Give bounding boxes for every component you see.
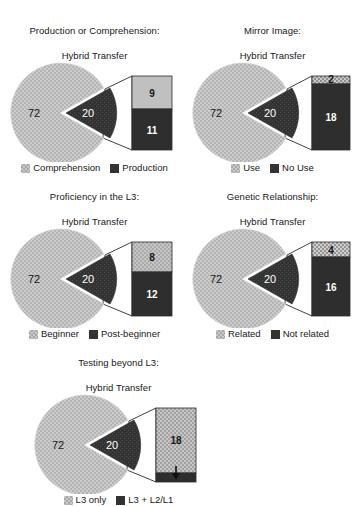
bar-label-light: 2: [328, 74, 334, 85]
bar-label-dark: 16: [325, 282, 337, 293]
pie-slice-label-minor: 20: [106, 439, 118, 451]
legend-entry-dark: No Use: [270, 162, 314, 174]
legend-swatch-light-icon: [64, 496, 73, 505]
legend-label-dark: L3 + L2/L1: [128, 494, 173, 506]
pie-slice-label-major: 72: [210, 273, 222, 285]
legend-swatch-light-icon: [216, 330, 225, 339]
bar-label-dark: 18: [325, 112, 337, 123]
pie-of-pie-svg: 72 20 4 16: [186, 228, 359, 328]
panel-legend: Beginner Post-beginner: [4, 328, 185, 340]
panel-title-line2: Hybrid Transfer: [240, 50, 306, 61]
panel-title-line1: Genetic Relationship:: [227, 191, 318, 202]
panel-title-line1: Proficiency in the L3:: [50, 191, 139, 202]
legend-swatch-light-icon: [21, 164, 30, 173]
legend-entry-light: L3 only: [64, 494, 107, 506]
pie-slice-label-major: 72: [28, 273, 40, 285]
panel-legend: Comprehension Production: [4, 162, 185, 174]
pie-slice-label-major: 72: [210, 107, 222, 119]
pie-of-pie-svg: 72 20 18: [28, 394, 209, 494]
legend-label-light: Use: [243, 162, 260, 174]
legend-label-light: Comprehension: [33, 162, 100, 174]
legend-entry-light: Use: [231, 162, 260, 174]
legend-label-dark: Production: [122, 162, 167, 174]
panel-title-line2: Hybrid Transfer: [86, 382, 152, 393]
legend-entry-dark: Not related: [271, 328, 329, 340]
bar-label-dark: 11: [147, 125, 158, 136]
legend-swatch-dark-icon: [110, 164, 119, 173]
bar-label-dark: 12: [146, 289, 158, 300]
panel-title-line2: Hybrid Transfer: [240, 216, 306, 227]
panel-title-line2: Hybrid Transfer: [62, 50, 128, 61]
bar-label-light: 4: [328, 245, 334, 256]
pie-slice-label-minor: 20: [82, 273, 94, 285]
panel-genetic-relationship: Genetic Relationship: Hybrid Transfer: [186, 178, 359, 330]
panel-title-line1: Mirror Image:: [244, 25, 301, 36]
bar-label-light: 8: [149, 252, 155, 263]
legend-label-light: Related: [228, 328, 261, 340]
legend-label-dark: Post-beginner: [101, 328, 160, 340]
pie-slice-label-minor: 20: [264, 107, 276, 119]
pie-slice-label-minor: 20: [264, 273, 276, 285]
panel-legend: L3 only L3 + L2/L1: [28, 494, 209, 506]
legend-swatch-dark-icon: [89, 330, 98, 339]
panel-title-line2: Hybrid Transfer: [62, 216, 128, 227]
pie-of-pie-plot: 72 20 4 16: [186, 228, 359, 328]
legend-entry-light: Related: [216, 328, 261, 340]
pie-slice-label-major: 72: [52, 439, 64, 451]
bar-label-light: 18: [170, 435, 182, 446]
legend-entry-dark: Production: [110, 162, 167, 174]
panel-title: Production or Comprehension: Hybrid Tran…: [4, 12, 185, 62]
panel-legend: Related Not related: [186, 328, 359, 340]
pie-slice-label-minor: 20: [82, 107, 94, 119]
legend-label-light: Beginner: [41, 328, 79, 340]
legend-label-light: L3 only: [76, 494, 107, 506]
panel-title: Proficiency in the L3: Hybrid Transfer: [4, 178, 185, 228]
panel-title-line1: Testing beyond L3:: [78, 357, 159, 368]
pie-of-pie-svg: 72 20 9 11: [4, 62, 185, 162]
pie-of-pie-plot: 72 20 8 12: [4, 228, 185, 328]
pie-of-pie-plot: 72 20 18: [28, 394, 209, 494]
pie-of-pie-svg: 72 20 8 12: [4, 228, 185, 328]
panel-testing-beyond-l3: Testing beyond L3: Hybrid Transfer: [28, 344, 209, 496]
pie-slice-label-major: 72: [28, 107, 40, 119]
pie-of-pie-plot: 72 20 9 11: [4, 62, 185, 162]
bar-label-light: 9: [149, 88, 155, 99]
legend-swatch-light-icon: [29, 330, 38, 339]
panel-production-or-comprehension: Production or Comprehension: Hybrid Tran…: [4, 12, 185, 164]
panel-proficiency-in-the-l3: Proficiency in the L3: Hybrid Transfer: [4, 178, 185, 330]
legend-entry-light: Beginner: [29, 328, 79, 340]
pie-of-pie-plot: 72 20 2 18: [186, 62, 359, 162]
legend-entry-dark: L3 + L2/L1: [116, 494, 173, 506]
panel-title-line1: Production or Comprehension:: [29, 25, 159, 36]
panel-title: Genetic Relationship: Hybrid Transfer: [186, 178, 359, 228]
legend-swatch-dark-icon: [116, 496, 125, 505]
legend-entry-dark: Post-beginner: [89, 328, 160, 340]
legend-label-dark: No Use: [282, 162, 314, 174]
panel-mirror-image: Mirror Image: Hybrid Transfer: [186, 12, 359, 164]
legend-label-dark: Not related: [283, 328, 329, 340]
pie-of-pie-svg: 72 20 2 18: [186, 62, 359, 162]
panel-title: Testing beyond L3: Hybrid Transfer: [28, 344, 209, 394]
legend-swatch-dark-icon: [270, 164, 279, 173]
panel-legend: Use No Use: [186, 162, 359, 174]
legend-entry-light: Comprehension: [21, 162, 100, 174]
panel-title: Mirror Image: Hybrid Transfer: [186, 12, 359, 62]
legend-swatch-light-icon: [231, 164, 240, 173]
legend-swatch-dark-icon: [271, 330, 280, 339]
